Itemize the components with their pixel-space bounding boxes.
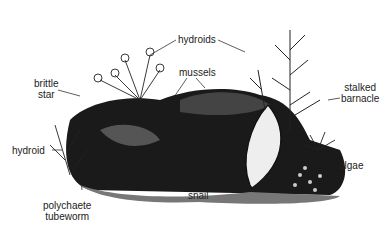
label-stalked-barnacle: stalked barnacle	[341, 82, 379, 104]
label-polychaete-tubeworm: polychaete tubeworm	[43, 200, 91, 222]
label-mussels: mussels	[179, 67, 216, 78]
hydroids-left	[94, 48, 164, 100]
label-brittle-star-line2: star	[34, 89, 58, 100]
label-stalked-barnacle-line2: barnacle	[341, 93, 379, 104]
label-stalked-barnacle-line1: stalked	[341, 82, 379, 93]
label-hydroid: hydroid	[12, 145, 45, 156]
label-algae: algae	[339, 160, 363, 171]
label-hydroids: hydroids	[178, 34, 216, 45]
label-brittle-star-line1: brittle	[34, 78, 58, 89]
label-polychaete-line2: tubeworm	[43, 211, 91, 222]
label-snail: snail	[188, 190, 209, 201]
label-polychaete-line1: polychaete	[43, 200, 91, 211]
label-brittle-star: brittle star	[34, 78, 58, 100]
